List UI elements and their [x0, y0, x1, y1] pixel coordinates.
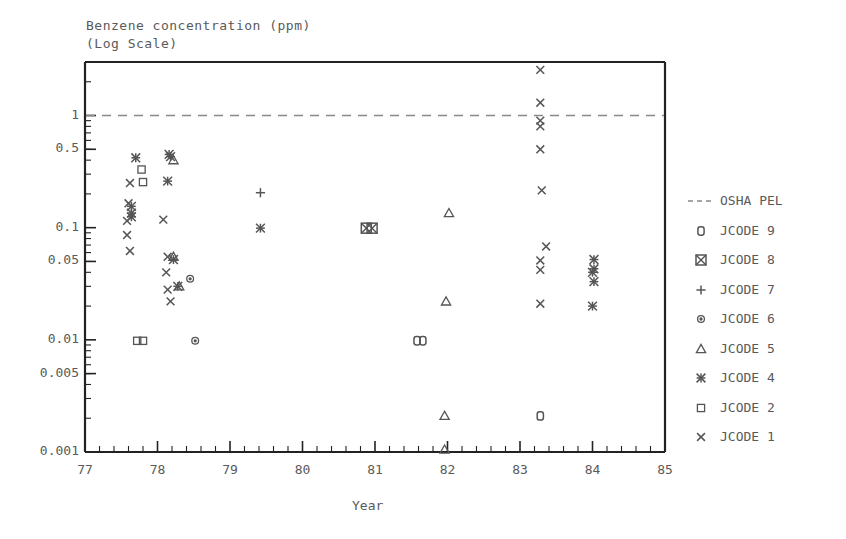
- small-square-icon: [686, 400, 716, 416]
- triangle-icon: [686, 341, 716, 357]
- series-jcode-1: [123, 66, 550, 308]
- chart-legend: OSHA PELJCODE 9JCODE 8JCODE 7JCODE 6JCOD…: [686, 193, 846, 459]
- legend-item-jcode-6[interactable]: JCODE 6: [686, 311, 846, 341]
- series-jcode-7: [256, 188, 265, 197]
- series-jcode-5: [169, 156, 454, 454]
- legend-label: JCODE 1: [720, 429, 775, 444]
- legend-item-jcode-2[interactable]: JCODE 2: [686, 400, 846, 430]
- series-jcode-9: [414, 337, 543, 420]
- dashed-line-icon: [686, 193, 716, 209]
- benzene-concentration-scatter-chart: Benzene concentration (ppm) (Log Scale) …: [0, 0, 846, 539]
- legend-item-jcode-5[interactable]: JCODE 5: [686, 341, 846, 371]
- legend-label: JCODE 2: [720, 400, 775, 415]
- series-jcode-8: [361, 223, 377, 233]
- legend-label: JCODE 8: [720, 252, 775, 267]
- legend-label: JCODE 4: [720, 370, 775, 385]
- plus-icon: [686, 282, 716, 298]
- legend-item-jcode-7[interactable]: JCODE 7: [686, 282, 846, 312]
- x-cross-icon: [686, 429, 716, 445]
- legend-label: JCODE 9: [720, 223, 775, 238]
- legend-item-osha-pel[interactable]: OSHA PEL: [686, 193, 846, 223]
- legend-item-jcode-9[interactable]: JCODE 9: [686, 223, 846, 253]
- legend-label: JCODE 5: [720, 341, 775, 356]
- series-jcode-2: [134, 166, 147, 345]
- legend-item-jcode-1[interactable]: JCODE 1: [686, 429, 846, 459]
- asterisk-icon: [686, 370, 716, 386]
- legend-item-jcode-8[interactable]: JCODE 8: [686, 252, 846, 282]
- legend-label: OSHA PEL: [720, 193, 783, 208]
- small-circle-icon: [686, 311, 716, 327]
- open-rounded-square-icon: [686, 223, 716, 239]
- legend-label: JCODE 6: [720, 311, 775, 326]
- series-jcode-6: [187, 275, 199, 344]
- legend-item-jcode-4[interactable]: JCODE 4: [686, 370, 846, 400]
- square-with-x-icon: [686, 252, 716, 268]
- series-jcode-4: [127, 150, 598, 310]
- legend-label: JCODE 7: [720, 282, 775, 297]
